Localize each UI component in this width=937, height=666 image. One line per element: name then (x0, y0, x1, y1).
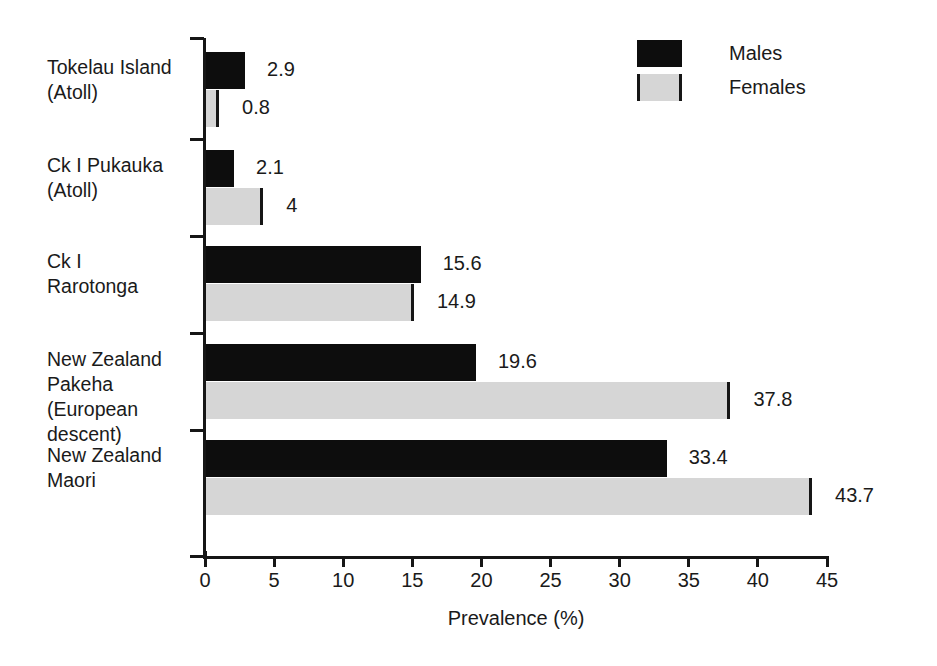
legend-label-males: Males (729, 42, 782, 65)
bar-males (205, 52, 245, 89)
x-axis-line (203, 556, 829, 559)
bar-males (205, 150, 234, 187)
category-label: Ck I Rarotonga (47, 249, 207, 299)
legend-item-males: Males (637, 36, 806, 70)
category-label: New Zealand Maori (47, 443, 207, 493)
bar-females (205, 478, 812, 515)
y-axis-tick (190, 332, 204, 335)
black-swatch-icon (637, 40, 682, 67)
legend-item-females: Females (637, 70, 806, 104)
bar-value-label: 15.6 (443, 252, 482, 275)
x-axis-tick-label: 20 (451, 569, 511, 592)
category-label: Ck I Pukauka (Atoll) (47, 153, 207, 203)
bar-value-label: 14.9 (437, 290, 476, 313)
prevalence-bar-chart: 051015202530354045Tokelau Island (Atoll)… (0, 0, 937, 666)
bar-males (205, 246, 421, 283)
x-axis-tick-label: 10 (313, 569, 373, 592)
x-axis-tick-label: 35 (659, 569, 719, 592)
x-axis-tick-label: 5 (244, 569, 304, 592)
y-axis-tick (190, 37, 204, 40)
legend-label-females: Females (729, 76, 806, 99)
x-axis-tick-label: 40 (728, 569, 788, 592)
bar-males (205, 344, 476, 381)
grey-swatch-icon (637, 74, 682, 101)
x-axis-tick-label: 25 (521, 569, 581, 592)
x-axis-tick-label: 15 (382, 569, 442, 592)
y-axis-tick (190, 555, 204, 558)
bar-females (205, 188, 263, 225)
x-axis-title: Prevalence (%) (203, 607, 829, 630)
bar-value-label: 2.1 (256, 156, 284, 179)
bar-females (205, 284, 414, 321)
bar-females (205, 90, 219, 127)
x-axis-tick-label: 45 (797, 569, 857, 592)
category-label: Tokelau Island (Atoll) (47, 55, 207, 105)
bar-males (205, 440, 667, 477)
bar-females (205, 382, 730, 419)
legend: Males Females (637, 36, 806, 104)
y-axis-line (203, 38, 206, 559)
x-axis-tick-label: 30 (590, 569, 650, 592)
bar-value-label: 43.7 (835, 484, 874, 507)
y-axis-tick (190, 235, 204, 238)
category-label: New Zealand Pakeha (European descent) (47, 347, 207, 447)
bar-value-label: 2.9 (267, 58, 295, 81)
bar-value-label: 37.8 (753, 388, 792, 411)
bar-value-label: 33.4 (689, 446, 728, 469)
bar-value-label: 0.8 (242, 96, 270, 119)
y-axis-tick (190, 138, 204, 141)
bar-value-label: 19.6 (498, 350, 537, 373)
x-axis-tick-label: 0 (175, 569, 235, 592)
bar-value-label: 4 (286, 194, 297, 217)
